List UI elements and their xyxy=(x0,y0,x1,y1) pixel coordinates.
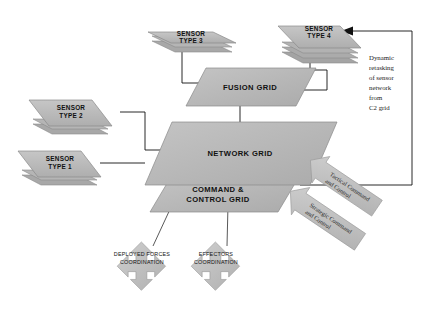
deployed-forces-coordination[interactable]: DEPLOYED FORCES COORDINATION xyxy=(114,242,171,290)
sensor-type-3[interactable]: SENSOR TYPE 3 xyxy=(148,30,236,52)
deployed-forces-label-line1: DEPLOYED FORCES xyxy=(114,251,171,257)
sensor-type-4-label-line2: TYPE 4 xyxy=(307,32,331,39)
retasking-annotation-line-6: C2 grid xyxy=(369,104,390,111)
retasking-annotation-line-3: of sensor xyxy=(369,74,394,81)
effectors-label-line2: COORDINATION xyxy=(194,259,238,265)
sensor-type-2[interactable]: SENSOR TYPE 2 xyxy=(29,100,112,134)
sensor-type-1-label-line1: SENSOR xyxy=(46,155,75,162)
fusion-grid[interactable]: FUSION GRID xyxy=(186,68,316,106)
sensor-type-4-label-line1: SENSOR xyxy=(305,25,334,32)
effectors-burst-arrow xyxy=(191,242,239,290)
sensor-type-1-label-line2: TYPE 1 xyxy=(48,163,72,170)
sensor-type-3-label-line1: SENSOR xyxy=(177,30,206,37)
network-grid-label: NETWORK GRID xyxy=(207,149,272,158)
command-control-grid-label-line1: COMMAND & xyxy=(192,185,244,194)
retasking-annotation: Dynamic retasking of sensor network from… xyxy=(369,54,395,111)
retasking-annotation-line-5: from xyxy=(369,94,383,101)
sensor-type-2-label-line2: TYPE 2 xyxy=(59,112,83,119)
fusion-grid-label: FUSION GRID xyxy=(223,83,277,92)
deployed-forces-burst-arrow xyxy=(117,242,165,290)
network-grid[interactable]: NETWORK GRID xyxy=(145,122,337,185)
sensor-type-2-label-line1: SENSOR xyxy=(57,104,86,111)
command-control-grid-label-line2: CONTROL GRID xyxy=(186,195,249,204)
network-grid-diagram: SENSOR TYPE 3 SENSOR TYPE 4 FUSION GRID … xyxy=(0,0,431,309)
sensor-type-1[interactable]: SENSOR TYPE 1 xyxy=(18,151,101,185)
retasking-annotation-line-4: network xyxy=(369,84,392,91)
retasking-annotation-line-2: retasking xyxy=(369,64,395,71)
effectors-label-line1: EFFECTORS xyxy=(199,251,234,257)
effectors-coordination[interactable]: EFFECTORS COORDINATION xyxy=(191,242,239,290)
deployed-forces-label-line2: COORDINATION xyxy=(120,259,164,265)
retasking-annotation-line-1: Dynamic xyxy=(369,54,394,61)
sensor-type-3-label-line2: TYPE 3 xyxy=(179,37,203,44)
